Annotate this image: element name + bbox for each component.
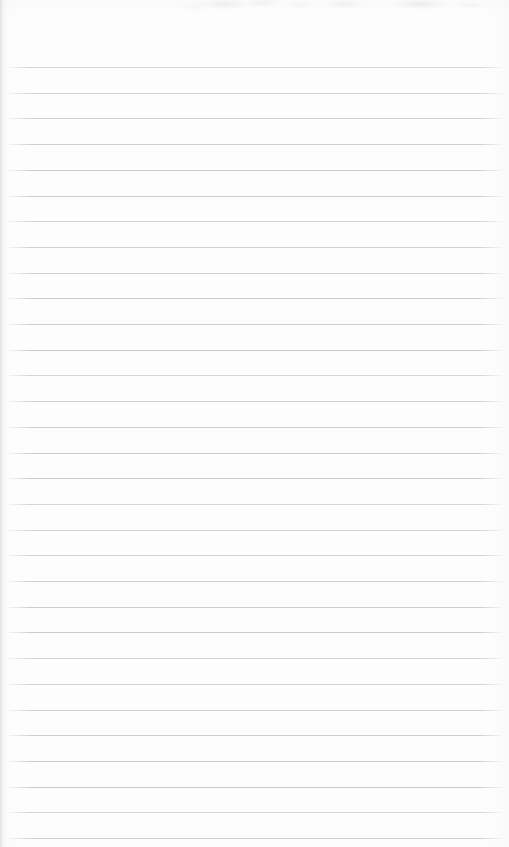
ruled-line <box>5 247 505 248</box>
ruled-line <box>5 658 505 659</box>
ruled-line <box>5 273 505 274</box>
ruled-line <box>5 607 505 608</box>
ruled-lines-group <box>0 0 509 847</box>
ruled-line <box>5 530 505 531</box>
ruled-line <box>5 838 505 839</box>
ruled-line <box>5 735 505 736</box>
ruled-line <box>5 350 505 351</box>
ruled-line <box>5 324 505 325</box>
ruled-line <box>5 453 505 454</box>
ruled-line <box>5 93 505 94</box>
ruled-line <box>5 761 505 762</box>
ruled-line <box>5 581 505 582</box>
ruled-line <box>5 555 505 556</box>
ruled-line <box>5 812 505 813</box>
ruled-line <box>5 478 505 479</box>
ruled-line <box>5 67 505 68</box>
ruled-line <box>5 684 505 685</box>
ruled-line <box>5 118 505 119</box>
ruled-line <box>5 221 505 222</box>
ruled-line <box>5 632 505 633</box>
ruled-line <box>5 298 505 299</box>
ruled-line <box>5 504 505 505</box>
scanned-page <box>0 0 509 847</box>
ruled-line <box>5 144 505 145</box>
ruled-line <box>5 375 505 376</box>
ruled-line <box>5 427 505 428</box>
ruled-line <box>5 196 505 197</box>
ruled-line <box>5 401 505 402</box>
ruled-line <box>5 710 505 711</box>
ruled-line <box>5 170 505 171</box>
ruled-line <box>5 787 505 788</box>
